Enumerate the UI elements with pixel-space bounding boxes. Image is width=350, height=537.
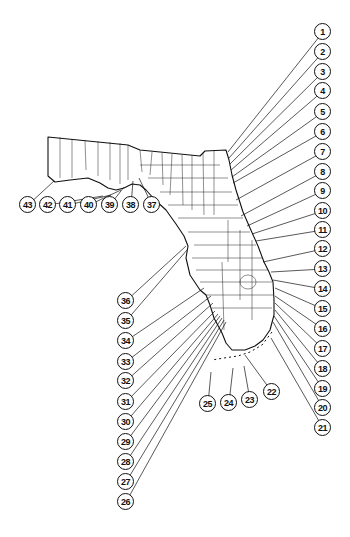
callout-marker-6: 6: [314, 123, 331, 140]
callout-marker-42: 42: [39, 196, 56, 213]
callout-marker-26: 26: [117, 493, 134, 510]
callout-marker-17: 17: [314, 340, 331, 357]
callout-marker-36: 36: [117, 292, 134, 309]
callout-marker-38: 38: [122, 196, 139, 213]
callout-marker-2: 2: [314, 43, 331, 60]
leader-line: [233, 132, 323, 183]
leader-line: [126, 246, 186, 301]
callout-marker-27: 27: [117, 473, 134, 490]
callout-marker-13: 13: [314, 260, 331, 277]
callout-marker-19: 19: [314, 380, 331, 397]
callout-marker-41: 41: [59, 196, 76, 213]
leader-line: [126, 250, 187, 321]
callout-marker-15: 15: [314, 300, 331, 317]
callout-marker-1: 1: [314, 23, 331, 40]
callout-marker-8: 8: [314, 163, 331, 180]
callout-marker-40: 40: [80, 196, 97, 213]
leader-line: [126, 316, 220, 442]
leader-line: [252, 211, 323, 234]
leader-line: [256, 230, 323, 241]
callout-marker-4: 4: [314, 82, 331, 99]
callout-marker-43: 43: [19, 196, 36, 213]
leader-line: [229, 52, 323, 158]
callout-marker-11: 11: [314, 221, 331, 238]
leader-line: [126, 322, 226, 502]
callout-marker-29: 29: [117, 433, 134, 450]
callout-marker-22: 22: [263, 383, 280, 400]
leader-line: [247, 191, 323, 226]
leader-line: [230, 72, 323, 164]
callout-marker-10: 10: [314, 202, 331, 219]
callout-marker-14: 14: [314, 280, 331, 297]
callout-marker-16: 16: [314, 320, 331, 337]
callout-marker-12: 12: [314, 240, 331, 257]
county-lines: [60, 137, 274, 330]
leader-line: [228, 32, 323, 152]
callout-marker-23: 23: [241, 391, 258, 408]
callout-marker-39: 39: [101, 196, 118, 213]
leader-line: [126, 288, 204, 341]
callout-marker-25: 25: [199, 395, 216, 412]
callout-marker-37: 37: [143, 196, 160, 213]
callout-marker-35: 35: [117, 312, 134, 329]
callout-marker-28: 28: [117, 453, 134, 470]
callout-marker-20: 20: [314, 399, 331, 416]
callout-marker-32: 32: [117, 372, 134, 389]
callout-marker-31: 31: [117, 393, 134, 410]
callout-marker-33: 33: [117, 353, 134, 370]
callout-marker-3: 3: [314, 63, 331, 80]
callout-marker-18: 18: [314, 360, 331, 377]
callout-marker-7: 7: [314, 143, 331, 160]
leader-line: [241, 172, 323, 216]
callout-leaders: [28, 32, 323, 502]
callout-marker-21: 21: [314, 419, 331, 436]
callout-marker-9: 9: [314, 182, 331, 199]
callout-marker-5: 5: [314, 103, 331, 120]
callout-marker-34: 34: [117, 332, 134, 349]
florida-county-map: [0, 0, 350, 537]
keys-islands: [212, 332, 272, 360]
callout-marker-30: 30: [117, 413, 134, 430]
leader-line: [232, 112, 323, 177]
leader-line: [275, 310, 323, 369]
leader-line: [126, 318, 222, 462]
leader-line: [236, 152, 323, 200]
callout-marker-24: 24: [220, 394, 237, 411]
